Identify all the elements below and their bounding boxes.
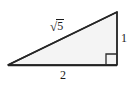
triangle-figure: √5 1 2 — [0, 0, 133, 86]
base-label: 2 — [60, 69, 66, 81]
radicand-value: 5 — [56, 19, 64, 34]
radical-expression: √5 — [50, 19, 64, 34]
hypotenuse-label: √5 — [50, 19, 64, 34]
triangle-svg — [0, 0, 133, 86]
vertical-leg-label: 1 — [121, 32, 127, 44]
